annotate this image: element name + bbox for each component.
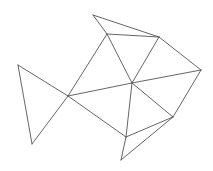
edge-E-J — [126, 83, 132, 137]
edge-I-K — [121, 117, 173, 160]
edge-F-E — [68, 83, 132, 96]
edge-A-B — [93, 15, 107, 34]
edge-B-E — [107, 34, 132, 83]
edge-E-D — [132, 70, 201, 83]
fish-diagram — [0, 0, 213, 171]
edge-D-I — [173, 70, 201, 117]
fish-triangles-drawing — [0, 0, 213, 171]
edge-C-E — [132, 37, 159, 83]
edge-I-J — [126, 117, 173, 137]
edge-G-F — [18, 65, 68, 96]
edge-B-F — [68, 34, 107, 96]
edge-H-F — [32, 96, 68, 144]
edge-G-H — [18, 65, 32, 144]
edge-C-D — [159, 37, 201, 70]
edge-A-C — [93, 15, 159, 37]
edge-E-I — [132, 83, 173, 117]
edge-F-J — [68, 96, 126, 137]
